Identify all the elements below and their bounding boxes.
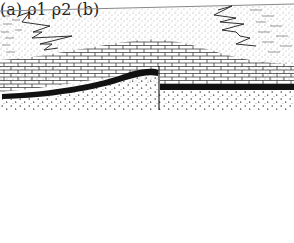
- panel-a-section: [0, 4, 294, 110]
- black-bed-right: [160, 84, 294, 90]
- geologic-cross-section-figure: [0, 0, 294, 243]
